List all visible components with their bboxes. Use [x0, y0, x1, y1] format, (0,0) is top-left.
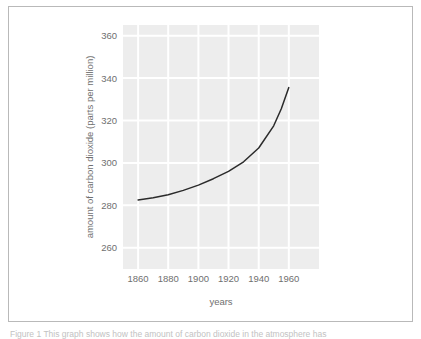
y-tick-300: 300	[101, 157, 117, 168]
y-tick-360: 360	[101, 30, 117, 41]
y-axis-tick-labels: 260 280 300 320 340 360	[101, 30, 117, 253]
x-tick-1900: 1900	[188, 273, 209, 284]
x-tick-1920: 1920	[218, 273, 239, 284]
figure-caption: Figure 1 This graph shows how the amount…	[10, 330, 410, 339]
figure-caption-row: Figure 1 This graph shows how the amount…	[10, 330, 410, 339]
x-tick-1860: 1860	[128, 273, 149, 284]
x-axis-tick-labels: 1860 1880 1900 1920 1940 1960	[128, 273, 300, 284]
x-tick-1960: 1960	[278, 273, 299, 284]
figure-frame: 260 280 300 320 340 360 1860 1880 1900 1…	[8, 6, 413, 322]
co2-line-chart: 260 280 300 320 340 360 1860 1880 1900 1…	[9, 7, 414, 323]
y-tick-320: 320	[101, 115, 117, 126]
chart-svg: 260 280 300 320 340 360 1860 1880 1900 1…	[9, 7, 414, 323]
y-tick-340: 340	[101, 73, 117, 84]
y-tick-260: 260	[101, 242, 117, 253]
x-tick-1880: 1880	[158, 273, 179, 284]
y-tick-280: 280	[101, 200, 117, 211]
x-axis-title: years	[209, 296, 232, 307]
x-tick-1940: 1940	[248, 273, 269, 284]
y-axis-title: amount of carbon dioxide (parts per mill…	[84, 56, 95, 239]
